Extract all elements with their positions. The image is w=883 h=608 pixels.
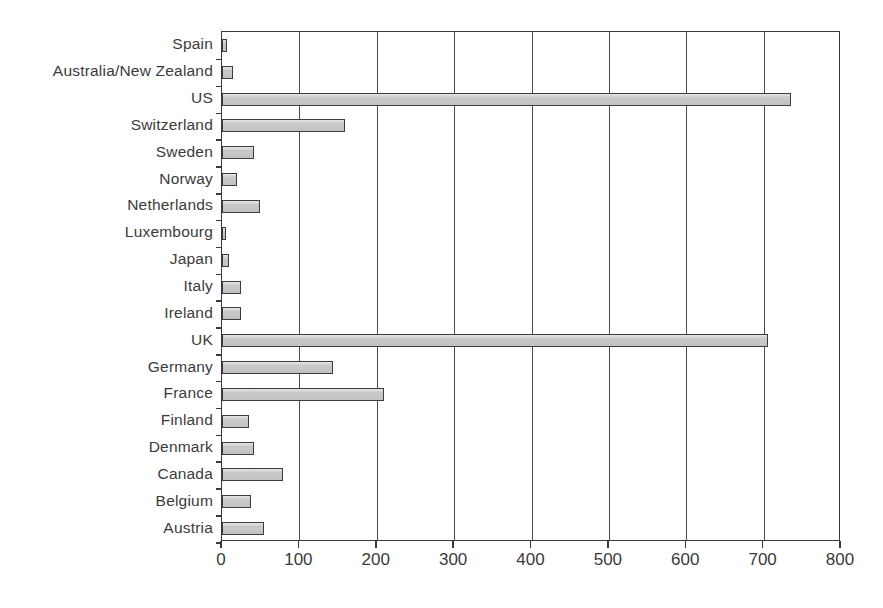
- y-axis-tick: [216, 139, 222, 141]
- gridline-400: [532, 32, 533, 540]
- x-axis-tick-label: 800: [826, 551, 854, 568]
- category-label: Denmark: [0, 439, 213, 455]
- x-axis-tick-label: 200: [362, 551, 390, 568]
- y-axis-tick: [216, 435, 222, 437]
- category-label: France: [0, 385, 213, 401]
- y-axis-tick: [216, 113, 222, 115]
- y-axis-tick: [216, 381, 222, 383]
- bar: [222, 334, 768, 347]
- y-axis-tick: [216, 461, 222, 463]
- x-axis-tick-label: 600: [671, 551, 699, 568]
- x-axis-tick: [685, 541, 687, 548]
- y-axis-tick: [216, 220, 222, 222]
- x-axis-tick: [530, 541, 532, 548]
- bar: [222, 66, 233, 79]
- x-axis-tick-label: 500: [594, 551, 622, 568]
- y-axis-tick: [216, 515, 222, 517]
- x-axis-tick: [375, 541, 377, 548]
- gridline-700: [764, 32, 765, 540]
- category-label: Italy: [0, 278, 213, 294]
- bar: [222, 227, 226, 240]
- category-label: Japan: [0, 251, 213, 267]
- bar: [222, 415, 249, 428]
- category-label: Spain: [0, 36, 213, 52]
- bar: [222, 522, 264, 535]
- x-axis-tick: [839, 541, 841, 548]
- gridline-500: [609, 32, 610, 540]
- gridline-300: [454, 32, 455, 540]
- bar: [222, 254, 229, 267]
- bar: [222, 495, 251, 508]
- bar: [222, 39, 227, 52]
- x-axis: 0100200300400500600700800: [221, 541, 840, 601]
- x-axis-tick-label: 700: [748, 551, 776, 568]
- category-label: Luxembourg: [0, 224, 213, 240]
- y-axis-tick: [216, 274, 222, 276]
- gridline-200: [377, 32, 378, 540]
- bar: [222, 388, 384, 401]
- bar: [222, 93, 791, 106]
- bar: [222, 361, 333, 374]
- x-axis-tick-label: 0: [216, 551, 225, 568]
- category-label: Ireland: [0, 305, 213, 321]
- category-label: Belgium: [0, 493, 213, 509]
- y-axis-tick: [216, 193, 222, 195]
- bar-chart: SpainAustralia/New ZealandUSSwitzerlandS…: [0, 0, 883, 608]
- y-axis-tick: [216, 327, 222, 329]
- category-label: Austria: [0, 520, 213, 536]
- y-axis-tick: [216, 166, 222, 168]
- category-label: Canada: [0, 466, 213, 482]
- x-axis-tick: [298, 541, 300, 548]
- x-axis-tick: [220, 541, 222, 548]
- category-label: US: [0, 90, 213, 106]
- y-axis-tick: [216, 408, 222, 410]
- x-axis-tick: [452, 541, 454, 548]
- category-label: Finland: [0, 412, 213, 428]
- category-label: Switzerland: [0, 117, 213, 133]
- bar: [222, 307, 241, 320]
- x-axis-tick-label: 400: [516, 551, 544, 568]
- x-axis-tick: [762, 541, 764, 548]
- bar: [222, 146, 254, 159]
- category-label: UK: [0, 332, 213, 348]
- bar: [222, 468, 283, 481]
- category-label: Netherlands: [0, 197, 213, 213]
- x-axis-tick-label: 300: [439, 551, 467, 568]
- bar: [222, 173, 237, 186]
- y-axis-tick: [216, 300, 222, 302]
- category-label: Sweden: [0, 144, 213, 160]
- y-axis-tick: [216, 59, 222, 61]
- gridline-100: [299, 32, 300, 540]
- plot-area: [221, 31, 840, 541]
- category-axis-labels: SpainAustralia/New ZealandUSSwitzerlandS…: [0, 31, 213, 541]
- y-axis-tick: [216, 86, 222, 88]
- category-label: Germany: [0, 359, 213, 375]
- y-axis-tick: [216, 488, 222, 490]
- category-label: Norway: [0, 171, 213, 187]
- gridline-600: [686, 32, 687, 540]
- x-axis-tick: [607, 541, 609, 548]
- y-axis-tick: [216, 354, 222, 356]
- bar: [222, 442, 254, 455]
- y-axis-tick: [216, 247, 222, 249]
- x-axis-tick-label: 100: [284, 551, 312, 568]
- bar: [222, 281, 241, 294]
- bar: [222, 200, 260, 213]
- bar: [222, 119, 345, 132]
- category-label: Australia/New Zealand: [0, 63, 213, 79]
